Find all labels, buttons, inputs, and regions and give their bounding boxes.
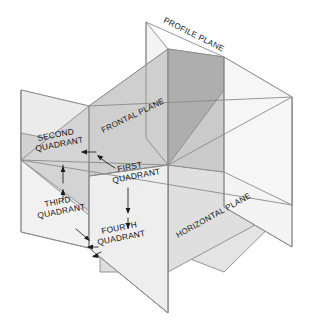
projection-planes-illustration: PROFILE PLANE FRONTAL PLANE HORIZONTAL P… xyxy=(0,0,312,330)
profile-plane-label-group: PROFILE PLANE xyxy=(162,16,226,54)
profile-plane-label: PROFILE PLANE xyxy=(162,16,226,54)
quadrant-diagram: PROFILE PLANE FRONTAL PLANE HORIZONTAL P… xyxy=(0,0,312,330)
